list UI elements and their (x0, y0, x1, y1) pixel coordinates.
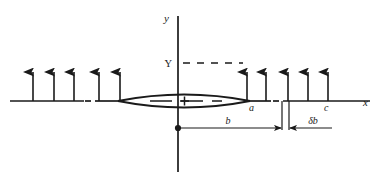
y-axis-label: y (163, 12, 169, 24)
x-axis-label: x (362, 96, 368, 108)
physics-diagram: y x Y a c b δb (0, 0, 376, 182)
field-arrows-left (33, 72, 120, 101)
dimension-delta-b-label: δb (308, 115, 318, 126)
field-arrows-right (247, 72, 328, 101)
dimension-b-label: b (226, 115, 231, 126)
lens-center-plus-marker (180, 97, 189, 106)
figure-container: y x Y a c b δb (0, 0, 376, 182)
lens-shape (118, 95, 250, 108)
Y-level-label: Y (164, 58, 172, 69)
point-a-label: a (249, 102, 254, 113)
point-c-label: c (324, 102, 329, 113)
